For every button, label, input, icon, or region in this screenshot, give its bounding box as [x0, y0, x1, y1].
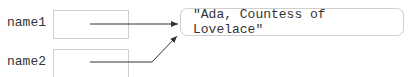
reference-arrows	[0, 0, 416, 77]
arrow-name2-to-value	[90, 36, 177, 62]
